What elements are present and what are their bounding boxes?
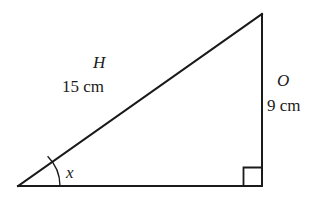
opposite-symbol-label: O bbox=[277, 72, 289, 89]
right-angle-marker-icon bbox=[244, 168, 263, 187]
triangle-side-hypotenuse bbox=[18, 14, 262, 186]
angle-x-label: x bbox=[66, 164, 74, 181]
hypotenuse-symbol-label: H bbox=[93, 54, 105, 71]
hypotenuse-measure-label: 15 cm bbox=[62, 78, 104, 95]
opposite-measure-label: 9 cm bbox=[267, 97, 301, 114]
triangle-diagram: H 15 cm O 9 cm x bbox=[0, 0, 329, 206]
